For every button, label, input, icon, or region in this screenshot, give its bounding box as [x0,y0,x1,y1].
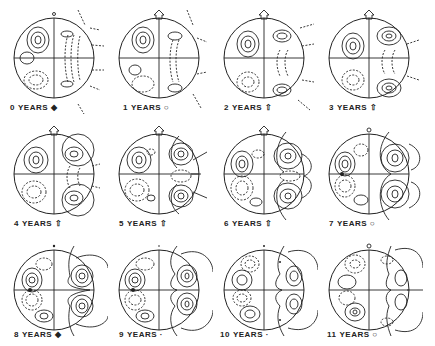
solar-disk-diagram [210,116,318,230]
year-number: 2 [224,103,229,112]
year-number: 6 [224,219,229,228]
arrow-up-icon: ⇧ [265,219,273,228]
year-label: 1YEARS ○ [123,103,169,112]
panel-year-4: 4YEARS ⇧ [0,116,108,230]
year-unit: YEARS [22,219,52,228]
year-label: 6YEARS ⇧ [224,219,272,228]
year-number: 1 [123,103,128,112]
panel-year-7: 7YEARS ○ [315,116,423,230]
pole-marker-icon: ◆ [51,103,58,112]
panel-year-11: 11YEARS ○ [315,232,423,346]
solar-disk-diagram [210,232,318,346]
year-label: 0YEARS ◆ [10,103,57,112]
year-unit: YEARS [339,330,369,339]
arrow-up-icon: ⇧ [55,219,63,228]
arrow-up-icon: ⇧ [265,103,273,112]
solar-disk-diagram [315,116,423,230]
year-unit: YEARS [131,103,161,112]
pole-marker-icon: ○ [372,330,377,339]
panel-year-3: 3YEARS ⇧ [315,0,423,114]
panel-year-0: 0YEARS ◆ [0,0,108,114]
panel-year-2: 2YEARS ⇧ [210,0,318,114]
panel-year-1: 1YEARS ○ [105,0,213,114]
pole-marker-icon: ○ [164,103,169,112]
panel-year-5: 5YEARS ⇧ [105,116,213,230]
year-number: 4 [14,219,19,228]
pole-marker-icon: · [160,330,163,339]
solar-disk-diagram [105,232,213,346]
year-label: 11YEARS ○ [327,330,378,339]
year-number: 5 [119,219,124,228]
solar-disk-diagram [0,232,108,346]
year-label: 5YEARS ⇧ [119,219,167,228]
panel-year-10: 10YEARS · [210,232,318,346]
year-unit: YEARS [337,219,367,228]
year-number: 10 [220,330,230,339]
solar-disk-diagram [315,0,423,114]
year-label: 3YEARS ⇧ [329,103,377,112]
solar-disk-diagram [105,116,213,230]
year-unit: YEARS [22,330,52,339]
year-number: 0 [10,103,15,112]
year-number: 9 [119,330,124,339]
panel-year-8: 8YEARS ◆ [0,232,108,346]
year-number: 8 [14,330,19,339]
year-unit: YEARS [127,219,157,228]
pole-marker-icon: ◆ [55,330,62,339]
year-label: 10YEARS · [220,330,269,339]
solar-disk-diagram [0,0,108,114]
year-unit: YEARS [232,103,262,112]
year-unit: YEARS [337,103,367,112]
arrow-up-icon: ⇧ [370,103,378,112]
year-label: 4YEARS ⇧ [14,219,62,228]
year-unit: YEARS [18,103,48,112]
year-label: 9YEARS · [119,330,163,339]
year-unit: YEARS [233,330,263,339]
year-label: 2YEARS ⇧ [224,103,272,112]
pole-marker-icon: ○ [370,219,375,228]
solar-disk-diagram [210,0,318,114]
solar-disk-diagram [315,232,423,346]
solar-disk-diagram [0,116,108,230]
arrow-up-icon: ⇧ [160,219,168,228]
year-unit: YEARS [127,330,157,339]
year-number: 3 [329,103,334,112]
year-unit: YEARS [232,219,262,228]
panel-year-6: 6YEARS ⇧ [210,116,318,230]
year-number: 11 [327,330,336,339]
year-label: 7YEARS ○ [329,219,375,228]
pole-marker-icon: · [266,330,269,339]
year-label: 8YEARS ◆ [14,330,61,339]
solar-disk-diagram [105,0,213,114]
panel-year-9: 9YEARS · [105,232,213,346]
year-number: 7 [329,219,334,228]
